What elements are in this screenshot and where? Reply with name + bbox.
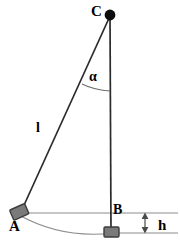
label-point-a: A bbox=[9, 219, 20, 234]
pendulum-string-line bbox=[20, 16, 110, 214]
pivot-bob-circle bbox=[105, 10, 116, 21]
vertical-reference-line bbox=[110, 15, 111, 233]
swing-arc-path bbox=[19, 215, 113, 234]
angle-arc-alpha bbox=[82, 84, 110, 91]
height-measure-arrow bbox=[142, 213, 149, 234]
diagram-canvas bbox=[0, 0, 180, 249]
label-string-length: l bbox=[36, 121, 40, 135]
label-pivot-c: C bbox=[91, 4, 102, 19]
bob-block-b bbox=[104, 227, 119, 237]
pendulum-diagram: C α l B A h bbox=[0, 0, 180, 249]
label-angle-alpha: α bbox=[89, 70, 97, 84]
label-point-b: B bbox=[113, 203, 122, 217]
label-height-h: h bbox=[158, 218, 166, 233]
